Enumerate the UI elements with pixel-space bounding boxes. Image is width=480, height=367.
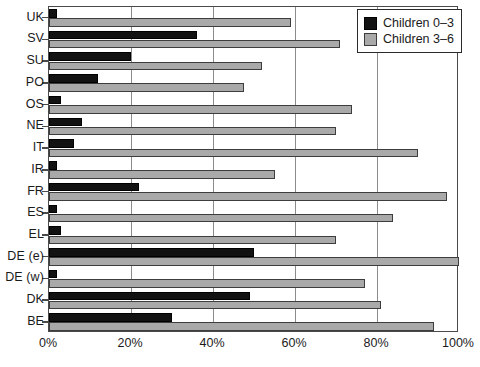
x-axis-labels: 0%20%40%60%80%100% [0, 336, 480, 358]
gridline [377, 7, 378, 331]
bar [49, 18, 291, 27]
legend-item-label: Children 0–3 [383, 17, 454, 30]
bar [49, 322, 434, 331]
bar [49, 127, 336, 136]
y-axis-label: FR [0, 185, 44, 198]
bar [49, 214, 393, 223]
bar [49, 279, 365, 288]
y-axis-label: IR [0, 163, 44, 176]
bar [49, 236, 336, 245]
y-axis-labels: UKSVSUPOOSNEITIRFRESELDE (e)DE (w)DKBE [0, 6, 44, 332]
bar [49, 226, 61, 235]
legend-swatch-black-icon [364, 17, 377, 30]
legend: Children 0–3Children 3–6 [357, 9, 462, 53]
legend-item[interactable]: Children 0–3 [364, 15, 454, 31]
y-axis-label: SV [0, 32, 44, 45]
y-axis-label: BE [0, 315, 44, 328]
y-axis-label: SU [0, 54, 44, 67]
legend-swatch-gray-icon [364, 33, 377, 46]
bar [49, 31, 197, 40]
bar [49, 248, 254, 257]
bar [49, 205, 57, 214]
bar [49, 149, 418, 158]
bar [49, 292, 250, 301]
y-axis-label: UK [0, 11, 44, 24]
x-axis-tick-label: 40% [199, 336, 224, 350]
bar [49, 139, 74, 148]
bar [49, 105, 352, 114]
y-axis-label: IT [0, 141, 44, 154]
bar [49, 257, 459, 266]
plot-area [48, 6, 458, 332]
bar [49, 40, 340, 49]
x-axis-tick-label: 80% [363, 336, 388, 350]
y-axis-label: EL [0, 228, 44, 241]
bar [49, 9, 57, 18]
bar [49, 301, 381, 310]
y-axis-label: NE [0, 119, 44, 132]
y-axis-label: ES [0, 206, 44, 219]
bar [49, 96, 61, 105]
legend-item[interactable]: Children 3–6 [364, 31, 454, 47]
legend-item-label: Children 3–6 [383, 33, 454, 46]
x-axis-tick-label: 0% [39, 336, 57, 350]
bar [49, 62, 262, 71]
x-axis-tick-label: 60% [281, 336, 306, 350]
bar [49, 192, 447, 201]
bar [49, 170, 275, 179]
bar [49, 74, 98, 83]
horizontal-bar-chart: UKSVSUPOOSNEITIRFRESELDE (e)DE (w)DKBE 0… [0, 0, 480, 367]
bar [49, 52, 131, 61]
x-axis-tick-label: 100% [442, 336, 474, 350]
bar [49, 83, 244, 92]
bar [49, 118, 82, 127]
bar [49, 270, 57, 279]
y-axis-label: PO [0, 76, 44, 89]
y-axis-label: DE (w) [0, 271, 44, 284]
x-axis-tick-label: 20% [117, 336, 142, 350]
bar [49, 313, 172, 322]
y-axis-label: DK [0, 293, 44, 306]
bar [49, 183, 139, 192]
y-axis-label: OS [0, 98, 44, 111]
y-axis-label: DE (e) [0, 250, 44, 263]
bar [49, 161, 57, 170]
